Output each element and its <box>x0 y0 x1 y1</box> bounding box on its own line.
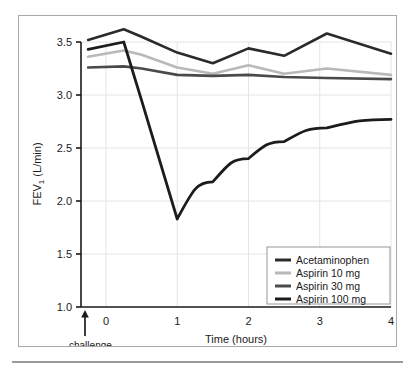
line-chart: 1.01.52.02.53.03.5 01234 challenge Time … <box>19 16 396 346</box>
y-tick-label: 2.5 <box>57 142 72 154</box>
series-line-acetaminophen <box>88 29 391 63</box>
y-tick-label: 1.0 <box>57 301 72 313</box>
x-tick-label: 4 <box>388 315 394 327</box>
y-axis-title-tail: (L/min) <box>31 142 43 179</box>
legend-label-2: Aspirin 30 mg <box>296 280 360 292</box>
y-tick-label: 3.5 <box>57 36 72 48</box>
y-axis-title: FEV1 (L/min) <box>31 142 46 205</box>
x-tick-label: 1 <box>174 315 180 327</box>
legend-label-1: Aspirin 10 mg <box>296 267 360 279</box>
x-tick-label: 0 <box>103 315 109 327</box>
y-tick-label: 1.5 <box>57 248 72 260</box>
x-axis-tick-labels: 01234 <box>103 315 394 327</box>
y-tick-label: 3.0 <box>57 89 72 101</box>
challenge-arrow-icon <box>81 310 89 336</box>
x-axis-title: Time (hours) <box>205 333 267 345</box>
y-axis-title-main: FEV <box>31 184 43 206</box>
grid-horizontal <box>81 42 391 254</box>
bottom-divider-rule <box>12 361 403 363</box>
y-axis-tick-labels: 1.01.52.02.53.03.5 <box>57 36 72 313</box>
legend-label-0: Acetaminophen <box>296 254 369 266</box>
data-series-group <box>88 29 391 219</box>
chart-legend[interactable]: AcetaminophenAspirin 10 mgAspirin 30 mgA… <box>267 247 390 305</box>
challenge-label: challenge <box>69 340 112 346</box>
x-tick-label: 3 <box>317 315 323 327</box>
x-tick-label: 2 <box>245 315 251 327</box>
svg-text:FEV1 (L/min): FEV1 (L/min) <box>31 142 46 205</box>
legend-label-3: Aspirin 100 mg <box>296 293 366 305</box>
figure-container: 1.01.52.02.53.03.5 01234 challenge Time … <box>0 0 415 376</box>
chart-frame: 1.01.52.02.53.03.5 01234 challenge Time … <box>18 15 397 347</box>
y-tick-label: 2.0 <box>57 195 72 207</box>
